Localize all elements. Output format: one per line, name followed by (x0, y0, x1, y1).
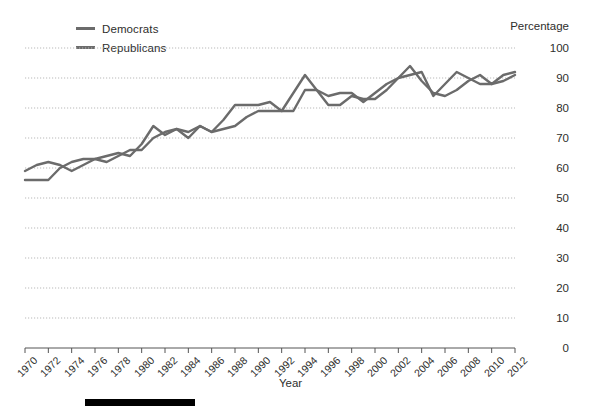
line-chart: Democrats Republicans Percentage 0102030… (0, 0, 591, 413)
x-axis-title-text: Year (279, 377, 302, 389)
y-tick-label: 50 (521, 192, 591, 204)
series-line-democrats (25, 66, 515, 171)
y-tick-label: 100 (521, 42, 591, 54)
x-axis-title: Year (0, 377, 591, 389)
legend-item-democrats: Democrats (76, 20, 276, 37)
y-tick-label: 80 (521, 102, 591, 114)
y-tick-label: 70 (521, 132, 591, 144)
legend-swatch-democrats (76, 27, 95, 30)
series-lines (25, 48, 515, 348)
series-line-republicans (25, 72, 515, 180)
y-tick-label: 90 (521, 72, 591, 84)
y-tick-label: 20 (521, 282, 591, 294)
y-axis-title: Percentage (510, 20, 569, 32)
y-tick-label: 0 (521, 342, 591, 354)
y-tick-label: 40 (521, 222, 591, 234)
y-tick-label: 10 (521, 312, 591, 324)
legend-label-democrats: Democrats (102, 23, 159, 35)
x-axis-ticks: 1970197219741976197819801982198419861988… (0, 354, 591, 398)
y-tick-label: 60 (521, 162, 591, 174)
plot-area (25, 48, 515, 348)
bottom-black-bar (85, 399, 195, 406)
y-tick-label: 30 (521, 252, 591, 264)
